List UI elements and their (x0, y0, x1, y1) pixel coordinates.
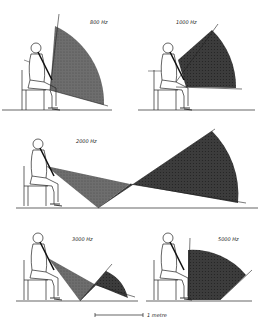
label-3000hz: 3000 Hz (72, 236, 93, 242)
panel-800hz: 800 Hz (2, 14, 112, 110)
scale-bar: 1 metre (95, 312, 167, 318)
radiation-lobe-direct (46, 166, 130, 208)
panel-5000hz: 5000 Hz (146, 233, 252, 301)
label-2000hz: 2000 Hz (76, 138, 97, 144)
radiation-sector (188, 250, 246, 300)
diagram-canvas: 800 Hz 1000 Hz 2000 Hz 3000 Hz (0, 0, 273, 332)
panel-3000hz: 3000 Hz (16, 233, 138, 301)
panel-1000hz: 1000 Hz (138, 19, 255, 110)
label-5000hz: 5000 Hz (218, 236, 239, 242)
radiation-sector (50, 26, 104, 105)
label-1000hz: 1000 Hz (176, 19, 197, 25)
scale-bar-label: 1 metre (147, 312, 167, 318)
radiation-lobe-direct (48, 258, 96, 301)
radiation-lobe-reflected (98, 131, 238, 208)
panel-2000hz: 2000 Hz (16, 129, 258, 208)
label-800hz: 800 Hz (90, 19, 108, 25)
